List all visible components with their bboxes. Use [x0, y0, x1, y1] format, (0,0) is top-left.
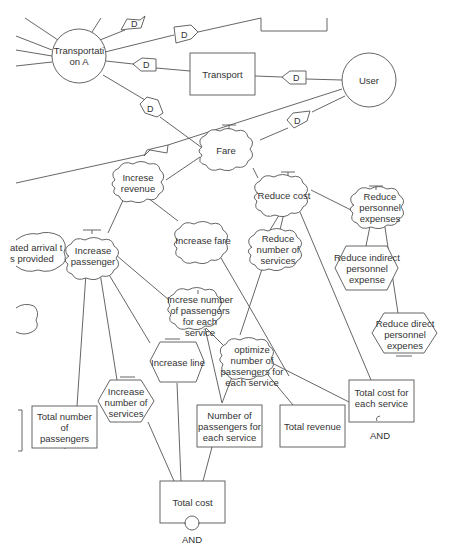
svg-text:D: D [293, 73, 300, 83]
node-partial-left-label[interactable] [14, 305, 40, 339]
svg-text:D: D [294, 116, 301, 126]
node-reduce-indirect-label[interactable]: Reduce indirect personnel expense [333, 255, 401, 281]
node-increse-number-of-passengers-label[interactable]: Increse number of passengers for each se… [165, 293, 235, 339]
node-increase-line-label[interactable]: Increase line [150, 352, 206, 372]
node-reduce-direct-label[interactable]: Reduce direct personnel expenes [372, 316, 438, 352]
node-reduce-number-of-services-label[interactable]: Reduce number of services [248, 232, 308, 266]
diagram-canvas: D D D D D D [0, 0, 449, 551]
node-total-cost-each-service-label[interactable]: Total cost for each service [349, 380, 414, 416]
node-transport-label[interactable]: Transport [190, 53, 255, 95]
node-total-revenue-label[interactable]: Total revenue [280, 405, 345, 447]
node-increase-number-of-services-label[interactable]: Increase number of services [98, 384, 154, 420]
node-reduce-personnel-expenses-label[interactable]: Reduce personnel expenses [349, 190, 411, 224]
node-increse-revenue-label[interactable]: Increse revenue [110, 170, 166, 196]
node-reduce-cost-label[interactable]: Reduce cost [253, 185, 315, 205]
node-fare-label[interactable]: Fare [200, 138, 252, 162]
node-total-number-of-passengers-label[interactable]: Total number of passengers [32, 406, 97, 448]
dependency-marker [144, 145, 168, 156]
node-total-cost-label[interactable]: Total cost [160, 481, 225, 523]
and-label-total-cost-each-service: AND [370, 430, 390, 441]
node-transportation-a-label[interactable]: Transportati on A [52, 40, 106, 72]
svg-text:D: D [147, 104, 154, 114]
node-increase-fare-label[interactable]: Increase fare [172, 230, 234, 250]
and-label-total-cost: AND [182, 534, 202, 545]
node-optimize-number-label[interactable]: optimize number of passengers for each s… [218, 343, 286, 389]
svg-text:D: D [143, 60, 150, 70]
node-number-of-passengers-each-label[interactable]: Number of passengers for each service [197, 405, 262, 447]
node-estimated-arrival-label[interactable]: ated arrival t s provided [10, 240, 66, 266]
svg-text:D: D [181, 30, 188, 40]
node-user-label[interactable]: User [342, 68, 396, 92]
svg-text:D: D [131, 19, 138, 29]
node-increase-passenger-label[interactable]: Increase passenger [64, 243, 122, 269]
